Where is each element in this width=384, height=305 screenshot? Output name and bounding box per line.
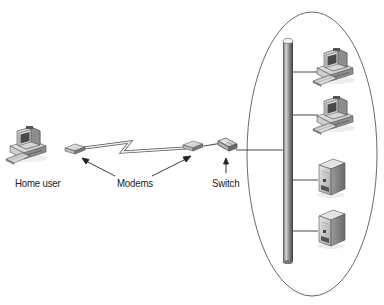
home-user-label: Home user [15,177,61,189]
server-1-icon [317,159,345,198]
office-computer-1-icon [313,48,355,87]
switch-label: Switch [212,177,239,189]
wan-link [84,142,186,152]
backbone-bus [283,39,293,265]
switch-icon [218,138,237,151]
lan-drops [292,72,318,231]
network-diagram [0,0,384,305]
office-computer-2-icon [313,96,355,135]
home-computer-icon [6,126,48,165]
home-modem-icon [65,144,85,154]
server-2-icon [317,210,345,249]
label-arrows [82,156,229,176]
modems-label: Modems [117,177,153,189]
office-lan-boundary [247,12,377,296]
